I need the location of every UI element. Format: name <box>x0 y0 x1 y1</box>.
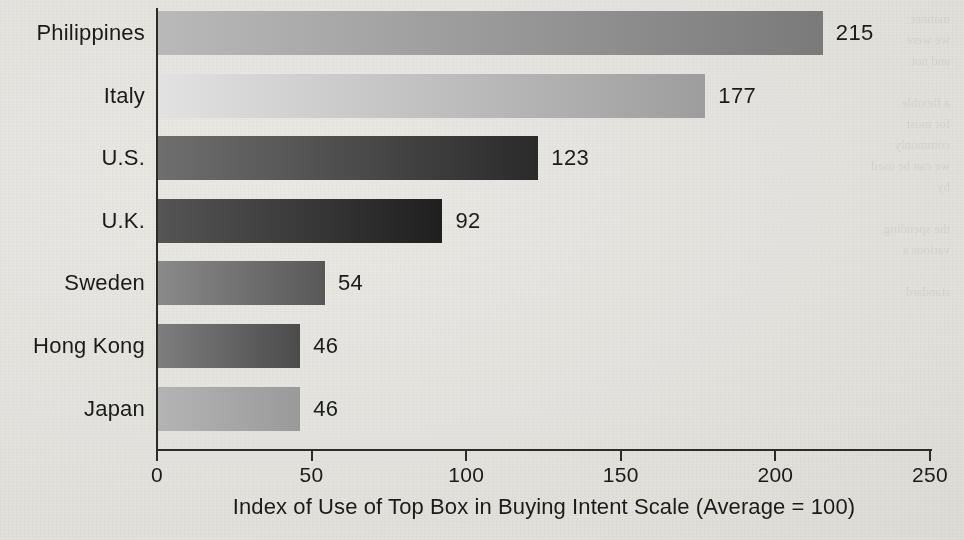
bar-value-u-k-: 92 <box>455 210 480 232</box>
bar-hong-kong <box>158 324 300 368</box>
x-tick-150 <box>620 451 622 461</box>
bar-u-s- <box>158 136 538 180</box>
category-label-hong-kong: Hong Kong <box>33 335 145 357</box>
category-label-japan: Japan <box>84 398 145 420</box>
bar-value-japan: 46 <box>313 398 338 420</box>
bar-value-u-s-: 123 <box>551 147 589 169</box>
x-tick-label-100: 100 <box>448 463 484 487</box>
x-tick-label-0: 0 <box>151 463 163 487</box>
x-axis-line <box>156 449 932 451</box>
bar-value-italy: 177 <box>718 85 756 107</box>
x-tick-label-50: 50 <box>300 463 324 487</box>
bar-value-hong-kong: 46 <box>313 335 338 357</box>
x-tick-label-250: 250 <box>912 463 948 487</box>
category-label-philippines: Philippines <box>36 22 145 44</box>
category-label-u-k-: U.K. <box>101 210 145 232</box>
category-label-italy: Italy <box>104 85 145 107</box>
x-tick-250 <box>929 451 931 461</box>
x-tick-200 <box>774 451 776 461</box>
chart-figure: manner we were and not a flexible for mo… <box>0 0 964 540</box>
x-tick-label-150: 150 <box>603 463 639 487</box>
x-tick-0 <box>156 451 158 461</box>
category-label-u-s-: U.S. <box>101 147 145 169</box>
bar-sweden <box>158 261 325 305</box>
plot-area: 050100150200250 Philippines215Italy177U.… <box>0 0 964 540</box>
bar-japan <box>158 387 300 431</box>
x-tick-50 <box>311 451 313 461</box>
bar-value-sweden: 54 <box>338 272 363 294</box>
bar-value-philippines: 215 <box>836 22 874 44</box>
bar-italy <box>158 74 705 118</box>
x-tick-100 <box>465 451 467 461</box>
bar-philippines <box>158 11 823 55</box>
category-label-sweden: Sweden <box>64 272 145 294</box>
x-axis-title: Index of Use of Top Box in Buying Intent… <box>156 494 932 520</box>
bar-u-k- <box>158 199 442 243</box>
x-tick-label-200: 200 <box>757 463 793 487</box>
